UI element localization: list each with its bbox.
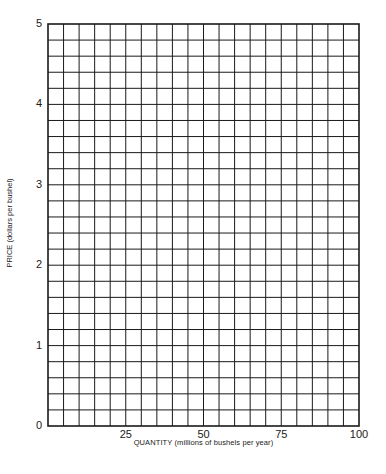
y-tick-label: 0 [28, 419, 42, 431]
x-axis-title: QUANTITY (millions of bushels per year) [48, 438, 359, 447]
grid-lines [48, 24, 359, 426]
y-tick-label: 5 [28, 17, 42, 29]
chart-grid [0, 0, 386, 474]
y-tick-label: 4 [28, 97, 42, 109]
y-tick-label: 1 [28, 339, 42, 351]
y-tick-label: 3 [28, 178, 42, 190]
y-axis-title: PRICE (dollars per bushel) [5, 153, 14, 293]
y-tick-label: 2 [28, 258, 42, 270]
